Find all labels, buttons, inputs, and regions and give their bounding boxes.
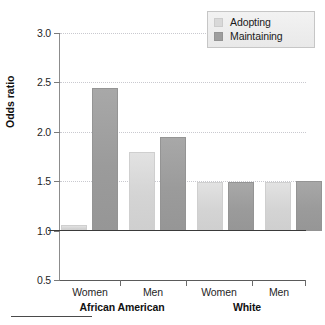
x-label-white-men: Men bbox=[252, 286, 306, 298]
bar-white-women-adopting[interactable] bbox=[197, 182, 223, 230]
y-tick-label-2.0: 2.0 bbox=[37, 126, 51, 138]
bar-white-men-maintaining[interactable] bbox=[296, 181, 322, 230]
x-axis-separator-1 bbox=[120, 280, 121, 286]
legend-label-maintaining: Maintaining bbox=[230, 30, 283, 42]
legend-item-maintaining[interactable]: Maintaining bbox=[214, 29, 309, 43]
footer-divider bbox=[11, 316, 92, 317]
legend-swatch-adopting-icon bbox=[214, 18, 223, 27]
y-tick-label-2.5: 2.5 bbox=[37, 76, 51, 88]
x-group-label-white: White bbox=[188, 301, 306, 313]
y-tick-label-1.5: 1.5 bbox=[37, 175, 51, 187]
bar-african-american-women-maintaining[interactable] bbox=[92, 88, 118, 230]
x-label-white-women: Women bbox=[188, 286, 250, 298]
x-label-african-american-women: Women bbox=[60, 286, 120, 298]
legend-label-adopting: Adopting bbox=[230, 16, 271, 28]
y-tick-0.5 bbox=[54, 280, 60, 281]
legend-swatch-maintaining-icon bbox=[214, 32, 223, 41]
y-axis-title: Odds ratio bbox=[4, 75, 16, 128]
bar-african-american-men-maintaining[interactable] bbox=[160, 137, 186, 231]
bars-container bbox=[60, 33, 306, 231]
bar-african-american-men-adopting[interactable] bbox=[129, 152, 155, 231]
bar-white-men-adopting[interactable] bbox=[265, 182, 291, 230]
y-tick-label-3.0: 3.0 bbox=[37, 27, 51, 39]
legend: Adopting Maintaining bbox=[207, 11, 315, 48]
y-tick-label-0.5: 0.5 bbox=[37, 274, 51, 286]
x-group-label-african-american: African American bbox=[58, 301, 186, 313]
x-label-african-american-men: Men bbox=[122, 286, 184, 298]
x-axis-line bbox=[59, 280, 306, 281]
bar-white-women-maintaining[interactable] bbox=[228, 182, 254, 230]
x-axis-separator-2 bbox=[186, 280, 187, 286]
legend-item-adopting[interactable]: Adopting bbox=[214, 15, 309, 29]
plot-area: 3.0 2.5 2.0 1.5 1.0 0.5 bbox=[60, 33, 306, 280]
reference-line-1.0 bbox=[48, 230, 306, 231]
odds-ratio-bar-chart: Odds ratio 3.0 2.5 2.0 1.5 1.0 0.5 bbox=[0, 0, 325, 325]
